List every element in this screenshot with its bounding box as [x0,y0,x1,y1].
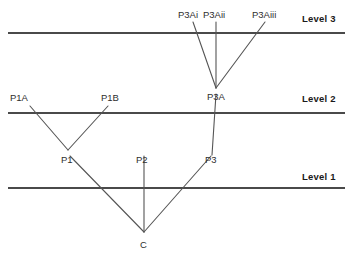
diagram-canvas: P3AiP3AiiP3AiiiP3AP1AP1BP1P2P3C Level 3L… [0,0,353,259]
node-label-p1: P1 [61,154,73,165]
node-label-p1b: P1B [101,92,119,103]
node-label-p3a: P3A [207,91,226,102]
edge-e-p1-c [70,156,144,232]
edge-e-p3ai-p3a [193,22,216,88]
level-label-level1: Level 1 [302,171,336,182]
node-label-p3: P3 [205,154,217,165]
edge-e-p3aiii-p3a [216,22,265,88]
node-label-p3ai: P3Ai [178,9,198,20]
edges-group [30,22,265,232]
level-label-level3: Level 3 [302,13,336,24]
hierarchy-diagram: P3AiP3AiiP3AiiiP3AP1AP1BP1P2P3C Level 3L… [0,0,353,259]
node-label-p2: P2 [136,154,148,165]
edge-e-p3-c [144,156,211,232]
node-label-p1a: P1A [10,92,29,103]
node-label-p3aiii: P3Aiii [252,9,276,20]
level-label-level2: Level 2 [302,93,336,104]
edge-e-p3a-p3 [212,94,216,155]
node-label-c: C [140,239,147,250]
node-label-p3aii: P3Aii [203,9,225,20]
level-labels-group: Level 3Level 2Level 1 [302,13,336,182]
level-lines-group [8,33,345,188]
